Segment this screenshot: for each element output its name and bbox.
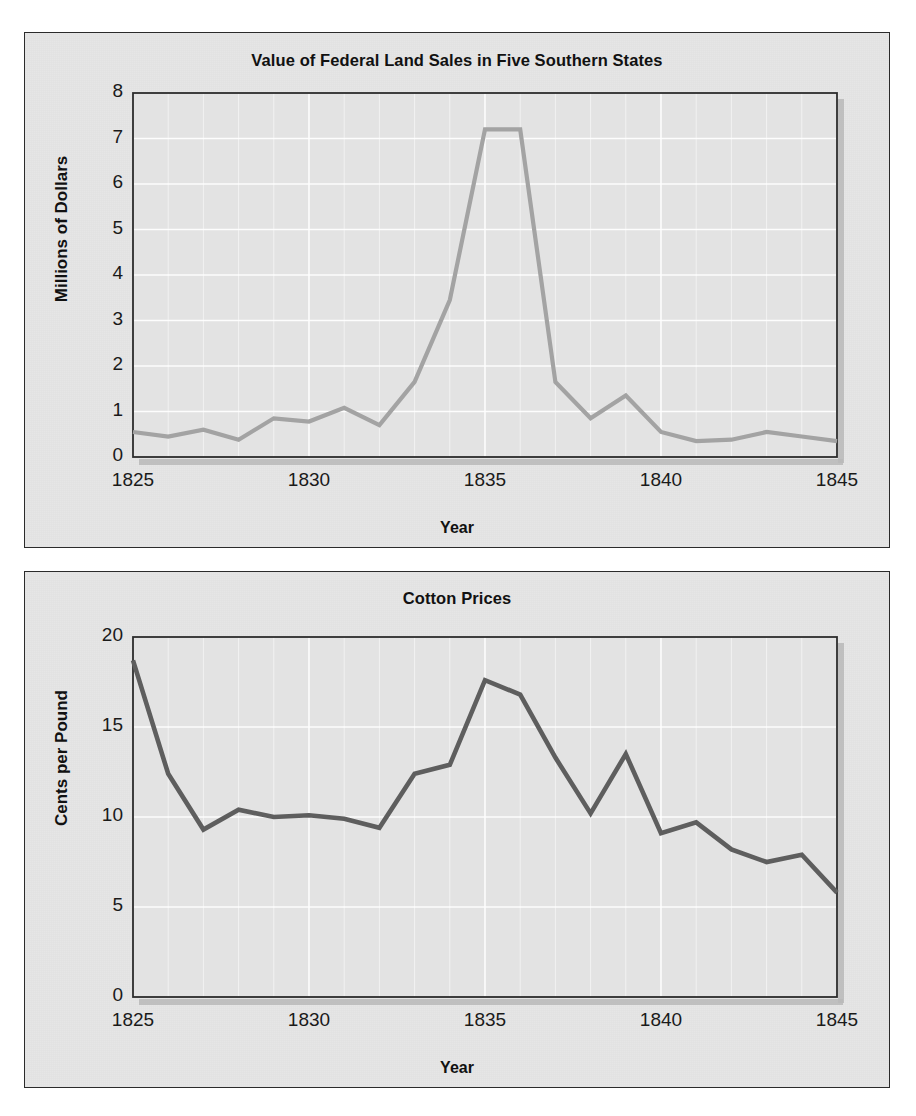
figure-page: Value of Federal Land Sales in Five Sout…: [0, 0, 916, 1116]
y-tick-label: 5: [83, 217, 123, 239]
x-axis-label-year: Year: [25, 519, 889, 537]
x-tick-label: 1830: [274, 1009, 344, 1031]
y-tick-label: 10: [83, 804, 123, 826]
y-tick-label: 0: [83, 444, 123, 466]
x-tick-label: 1840: [626, 469, 696, 491]
x-tick-label: 1835: [450, 1009, 520, 1031]
y-tick-label: 3: [83, 308, 123, 330]
chart-title-federal-land-sales: Value of Federal Land Sales in Five Sout…: [25, 51, 889, 70]
x-tick-label: 1835: [450, 469, 520, 491]
y-tick-label: 6: [83, 171, 123, 193]
y-tick-label: 15: [83, 714, 123, 736]
x-tick-label: 1825: [98, 469, 168, 491]
y-tick-label: 1: [83, 399, 123, 421]
y-tick-label: 0: [83, 984, 123, 1006]
y-tick-label: 8: [83, 80, 123, 102]
x-tick-label: 1840: [626, 1009, 696, 1031]
x-axis-label-year: Year: [25, 1059, 889, 1077]
y-axis-label-millions-of-dollars: Millions of Dollars: [52, 134, 72, 324]
chart-panel-cotton-prices: Cotton Prices Cents per Pound Year 20151…: [24, 571, 890, 1088]
chart-panel-federal-land-sales: Value of Federal Land Sales in Five Sout…: [24, 32, 890, 548]
x-tick-label: 1825: [98, 1009, 168, 1031]
y-tick-label: 4: [83, 262, 123, 284]
y-tick-label: 20: [83, 624, 123, 646]
y-tick-label: 2: [83, 353, 123, 375]
y-tick-label: 7: [83, 126, 123, 148]
x-tick-label: 1845: [802, 1009, 872, 1031]
x-tick-label: 1830: [274, 469, 344, 491]
chart-title-cotton-prices: Cotton Prices: [25, 589, 889, 608]
x-tick-label: 1845: [802, 469, 872, 491]
y-tick-label: 5: [83, 894, 123, 916]
y-axis-label-cents-per-pound: Cents per Pound: [52, 663, 72, 853]
